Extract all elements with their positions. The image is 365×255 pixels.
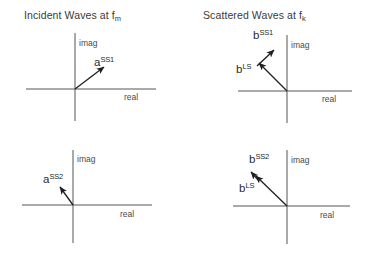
vector-label-b-ls-bottom-exponent: LS xyxy=(245,181,254,190)
vector-b-ss2 xyxy=(251,172,259,181)
real-axis-label-panel4: real xyxy=(320,210,334,220)
vector-a-ss1 xyxy=(75,67,104,89)
imag-axis-label-panel1: imag xyxy=(79,38,97,48)
vector-b-ls-bottom xyxy=(256,176,287,206)
vector-label-a-ss2-exponent: SS2 xyxy=(49,172,63,181)
diagram-vector-layer xyxy=(0,0,365,255)
vector-label-b-ls-top: bLS xyxy=(236,64,251,76)
figure-root: Incident Waves at fm Scattered Waves at … xyxy=(0,0,365,255)
real-axis-label-panel1: real xyxy=(124,92,138,102)
vector-a-ss2 xyxy=(60,187,73,205)
panel-title-incident: Incident Waves at fm xyxy=(24,9,121,21)
panel-title-incident-text: Incident Waves at f xyxy=(24,9,115,21)
real-axis-label-panel3: real xyxy=(120,209,134,219)
vector-b-ss1 xyxy=(257,50,274,66)
vector-label-a-ss1-exponent: SS1 xyxy=(100,55,114,64)
vector-label-b-ss1-exponent: SS1 xyxy=(259,28,273,37)
panel-title-scattered-subscript: k xyxy=(302,14,306,23)
imag-axis-label-panel2: imag xyxy=(291,40,309,50)
vector-b-ls-top xyxy=(259,63,287,91)
vector-label-b-ss2-exponent: SS2 xyxy=(255,152,269,161)
vector-label-b-ss2: bSS2 xyxy=(249,154,269,166)
vector-label-a-ss1: aSS1 xyxy=(94,57,114,69)
vector-label-a-ss2: aSS2 xyxy=(43,174,63,186)
panel-title-incident-subscript: m xyxy=(115,14,121,23)
panel-title-scattered-text: Scattered Waves at f xyxy=(203,9,302,21)
imag-axis-label-panel3: imag xyxy=(77,154,95,164)
vector-label-b-ss1: bSS1 xyxy=(253,30,273,42)
real-axis-label-panel2: real xyxy=(322,94,336,104)
vector-label-b-ls-top-exponent: LS xyxy=(242,62,251,71)
imag-axis-label-panel4: imag xyxy=(291,155,309,165)
vector-label-b-ls-bottom: bLS xyxy=(239,183,254,195)
panel-title-scattered: Scattered Waves at fk xyxy=(203,9,306,21)
